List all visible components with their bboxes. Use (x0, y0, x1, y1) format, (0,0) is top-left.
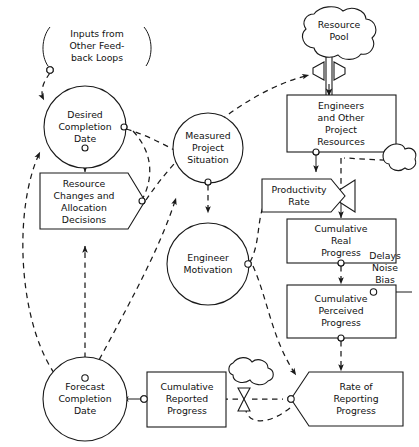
svg-text:Perceived: Perceived (318, 305, 363, 316)
svg-text:Completion: Completion (58, 121, 111, 132)
system-dynamics-diagram: Inputs from Other Feed- back Loops Desir… (0, 0, 419, 447)
svg-text:back Loops: back Loops (71, 52, 123, 63)
connector-motivation-right (245, 261, 251, 267)
valve-reporting-bottom (238, 388, 250, 411)
cumulative-reported-progress-label: Cumulative Reported Progress (160, 381, 213, 416)
svg-text:Project: Project (325, 124, 357, 135)
connector-reported-left (141, 396, 147, 402)
inputs-feedback-label: Inputs from Other Feed- back Loops (70, 28, 125, 63)
svg-text:Reported: Reported (166, 393, 209, 404)
link-reporting-to-bottom-valve (246, 408, 290, 421)
svg-text:Date: Date (74, 133, 97, 144)
svg-text:Forecast: Forecast (65, 381, 105, 392)
svg-text:Resources: Resources (317, 136, 365, 147)
valve-resource-inflow (313, 62, 345, 80)
svg-text:Decisions: Decisions (62, 214, 107, 225)
link-sinkcloud-to-engineers (344, 158, 385, 160)
sink-cloud-right (383, 144, 416, 171)
connector-desired-right (121, 124, 127, 130)
svg-text:Resource: Resource (318, 19, 361, 30)
svg-text:Date: Date (74, 405, 97, 416)
diagram-canvas: Inputs from Other Feed- back Loops Desir… (0, 0, 419, 447)
connector-measured-down (205, 179, 211, 185)
cumulative-perceived-progress-label: Cumulative Perceived Progress (314, 293, 367, 328)
connector-real-out (338, 260, 344, 266)
svg-text:Cumulative: Cumulative (314, 223, 367, 234)
svg-text:Desired: Desired (67, 109, 103, 120)
svg-text:Engineer: Engineer (187, 252, 229, 263)
connector-engineers-out (313, 149, 319, 155)
connector-resource-right (139, 198, 145, 204)
connector-delays (370, 289, 376, 295)
svg-text:Motivation: Motivation (184, 264, 233, 275)
svg-text:Changes and: Changes and (54, 190, 115, 201)
svg-text:Progress: Progress (336, 405, 376, 416)
svg-text:Resource: Resource (63, 178, 106, 189)
svg-text:Situation: Situation (187, 154, 229, 165)
flow-pool-to-engineers (326, 57, 332, 96)
svg-text:Progress: Progress (321, 247, 361, 258)
delays-noise-bias-label: Delays Noise Bias (369, 250, 401, 285)
svg-text:Allocation: Allocation (61, 202, 107, 213)
svg-text:Cumulative: Cumulative (314, 293, 367, 304)
svg-text:Progress: Progress (167, 405, 207, 416)
svg-text:Productivity: Productivity (271, 184, 327, 195)
svg-text:Noise: Noise (372, 262, 398, 273)
svg-text:Other Feed-: Other Feed- (70, 40, 125, 51)
svg-text:Reporting: Reporting (333, 393, 378, 404)
svg-text:Progress: Progress (321, 317, 361, 328)
sink-cloud-bottom (229, 358, 273, 385)
link-inputs-to-desired (42, 73, 50, 100)
svg-text:Rate: Rate (288, 196, 310, 207)
rate-of-reporting-progress-label: Rate of Reporting Progress (333, 381, 378, 416)
connector-desired-down (82, 145, 88, 151)
svg-text:Pool: Pool (329, 31, 348, 42)
svg-text:Bias: Bias (375, 274, 395, 285)
connector-perceived-out (338, 335, 344, 341)
svg-text:Delays: Delays (369, 250, 401, 261)
engineer-motivation-label: Engineer Motivation (184, 252, 233, 275)
svg-text:Engineers: Engineers (318, 100, 364, 111)
svg-text:Project: Project (192, 142, 224, 153)
connector-inputs-bottom (47, 67, 53, 73)
connector-reporting-left (288, 396, 294, 402)
svg-text:Measured: Measured (185, 130, 231, 141)
svg-text:and Other: and Other (318, 112, 365, 123)
svg-text:Cumulative: Cumulative (160, 381, 213, 392)
svg-text:Inputs from: Inputs from (70, 28, 124, 39)
svg-text:Completion: Completion (58, 393, 111, 404)
svg-text:Rate of: Rate of (339, 381, 373, 392)
svg-text:Real: Real (331, 235, 351, 246)
